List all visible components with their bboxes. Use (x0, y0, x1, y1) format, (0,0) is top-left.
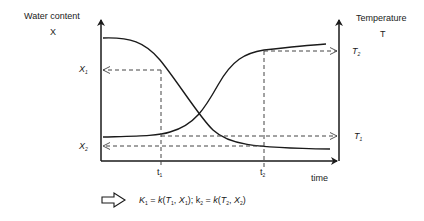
left-axis-symbol: X (50, 27, 56, 37)
right-axis-title: Temperature (356, 13, 407, 23)
left-axis-title: Water content (24, 11, 80, 21)
diagram-canvas (0, 0, 424, 221)
t1-time-label: t1 (157, 167, 162, 180)
implies-arrow-icon (102, 193, 125, 207)
x1-label: X1 (79, 64, 88, 77)
t2-temp-label: T2 (352, 46, 360, 59)
right-axis-symbol: T (380, 29, 386, 39)
t2-time-label: t2 (260, 167, 265, 180)
rate-formula: K1 = k(T1, X1); k2 = k(T2, X2) (139, 195, 246, 208)
time-axis-title: time (311, 173, 328, 183)
water-content-curve (103, 38, 330, 149)
temperature-curve (103, 44, 326, 137)
t1-temp-label: T1 (354, 131, 362, 144)
x2-label: X2 (79, 141, 88, 154)
